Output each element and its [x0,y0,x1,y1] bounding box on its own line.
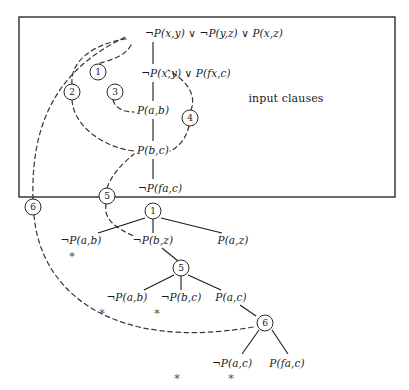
step-marker-4: 4 [182,110,199,127]
step-marker-6: 6 [25,199,42,216]
tree-node-l1-2: ¬P(b,z) [133,235,173,246]
input-clause-2: ¬P(x,y) ∨ P(fx,c) [141,68,231,79]
closed-branch-mark-2: * [99,308,105,319]
closed-branch-mark-4: * [174,373,180,384]
arc-2-lower [72,100,134,151]
tree-node-l2-3: P(a,c) [215,292,246,303]
step-marker-2: 2 [64,84,81,101]
closed-branch-mark-3: * [154,308,160,319]
closed-branch-mark-5: * [228,373,234,384]
input-clause-1: ¬P(x,y) ∨ ¬P(y,z) ∨ P(x,z) [145,28,283,39]
input-clause-3: P(a,b) [137,105,169,116]
arc-1 [98,45,131,64]
tree-node-l1-3: P(a,z) [218,235,249,246]
tree-subbranch-connector [162,248,178,261]
resolution-proof-figure: ¬P(x,y) ∨ ¬P(y,z) ∨ P(x,z) ¬P(x,y) ∨ P(f… [0,0,409,390]
step-marker-8: 5 [173,260,190,277]
arc-5-upper [107,154,134,188]
tree-subbranch-connector-2 [240,305,256,316]
tree-node-l3-2: P(fa,c) [269,358,304,369]
tree-node-l2-2: ¬P(b,c) [161,292,202,303]
closed-branch-mark-1: * [69,251,75,262]
arc-4-lower [170,126,189,151]
input-clauses-region-label: input clauses [248,93,323,104]
figure-canvas [0,0,409,390]
step-marker-5: 5 [99,188,116,205]
step-marker-7: 1 [145,203,162,220]
input-clauses-box [19,17,395,197]
input-clause-4: P(b,c) [137,145,169,156]
step-marker-3: 3 [107,84,124,101]
step-marker-9: 6 [257,315,274,332]
arc-5-lower [106,204,134,236]
step-marker-1: 1 [90,64,107,81]
proof-tree-edges [98,218,288,354]
tree-node-l3-1: ¬P(a,c) [212,358,252,369]
tree-node-l1-1: ¬P(a,b) [60,235,101,246]
tree-node-l2-1: ¬P(a,b) [106,292,147,303]
arc-3 [113,100,134,112]
input-clause-5: ¬P(fa,c) [138,183,182,194]
